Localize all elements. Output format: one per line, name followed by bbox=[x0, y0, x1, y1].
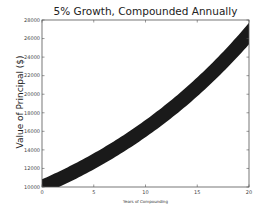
principal-line bbox=[32, 21, 260, 191]
x-tick-label: 10 bbox=[142, 189, 148, 195]
y-tick-label: 18000 bbox=[24, 110, 40, 116]
x-tick-label: 20 bbox=[246, 189, 252, 195]
y-tick-label: 24000 bbox=[24, 54, 40, 60]
x-tick-label: 5 bbox=[92, 189, 95, 195]
y-tick-label: 22000 bbox=[24, 72, 40, 78]
y-tick-label: 28000 bbox=[24, 17, 40, 23]
y-tick-label: 14000 bbox=[24, 147, 40, 153]
y-tick-label: 26000 bbox=[24, 35, 40, 41]
axes-frame bbox=[42, 20, 249, 187]
y-tick-label: 16000 bbox=[24, 128, 40, 134]
y-tick-label: 12000 bbox=[24, 165, 40, 171]
y-tick-label: 10000 bbox=[24, 184, 40, 190]
x-tick-label: 15 bbox=[194, 189, 200, 195]
plot-area: 1000012000140001600018000200002200024000… bbox=[0, 0, 265, 211]
y-tick-label: 20000 bbox=[24, 91, 40, 97]
x-tick-label: 0 bbox=[40, 189, 43, 195]
